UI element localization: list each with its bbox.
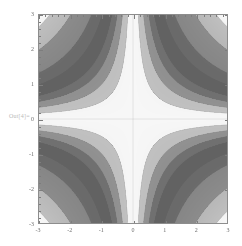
y-minor-tick [227,113,228,114]
y-minor-tick [227,155,228,156]
x-minor-tick [140,223,141,224]
y-minor-tick [227,106,228,107]
x-minor-tick [64,223,65,224]
x-minor-tick [71,223,72,224]
x-minor-tick [210,223,211,224]
y-axis-tick-label: 3 [20,11,34,18]
x-minor-tick [159,223,160,224]
x-minor-tick [204,223,205,224]
x-minor-tick [58,223,59,224]
contour-plot-figure: Out[4]= -3-2-101233210-1-2-3 [0,0,242,246]
contour-field [39,15,227,223]
y-minor-tick [227,134,228,135]
y-axis-tick-label: -2 [20,186,34,193]
y-minor-tick [227,120,228,121]
y-minor-tick [227,204,228,205]
y-minor-tick [227,22,228,23]
x-minor-tick [134,223,135,224]
y-minor-tick [227,176,228,177]
x-minor-tick [121,223,122,224]
x-minor-tick [178,223,179,224]
y-minor-tick [227,92,228,93]
y-minor-tick [227,127,228,128]
y-minor-tick [227,29,228,30]
y-minor-tick [227,162,228,163]
y-minor-tick [227,36,228,37]
y-minor-tick [227,15,228,16]
x-minor-tick [147,223,148,224]
y-minor-tick [227,197,228,198]
x-axis-tick-label: -1 [99,227,104,234]
x-axis-tick-label: 1 [163,227,166,234]
x-axis-tick-label: -3 [36,227,41,234]
y-minor-tick [227,64,228,65]
y-minor-tick [227,78,228,79]
y-minor-tick [227,99,228,100]
y-minor-tick [227,183,228,184]
y-axis-tick-label: 2 [20,46,34,53]
y-axis-tick-label: 0 [20,116,34,123]
x-minor-tick [128,223,129,224]
y-minor-tick [227,190,228,191]
x-minor-tick [102,223,103,224]
x-axis-tick-label: 0 [132,227,135,234]
y-minor-tick [227,218,228,219]
x-axis-tick-label: -2 [67,227,72,234]
x-minor-tick [109,223,110,224]
x-axis-tick-label: 2 [195,227,198,234]
x-minor-tick [77,223,78,224]
x-minor-tick [96,223,97,224]
y-axis-tick-label: -3 [20,221,34,228]
x-minor-tick [90,223,91,224]
y-minor-tick [227,57,228,58]
x-minor-tick [223,223,224,224]
y-minor-tick [227,169,228,170]
x-minor-tick [166,223,167,224]
x-minor-tick [153,223,154,224]
x-minor-tick [191,223,192,224]
x-minor-tick [185,223,186,224]
y-minor-tick [227,43,228,44]
y-axis-tick-label: -1 [20,151,34,158]
x-minor-tick [216,223,217,224]
y-minor-tick [227,85,228,86]
x-minor-tick [39,223,40,224]
x-minor-tick [52,223,53,224]
y-axis-tick-label: 1 [20,81,34,88]
x-minor-tick [45,223,46,224]
plot-frame [38,14,228,224]
y-minor-tick [227,71,228,72]
x-minor-tick [197,223,198,224]
y-minor-tick [227,148,228,149]
y-minor-tick [227,50,228,51]
y-minor-tick [227,211,228,212]
x-minor-tick [83,223,84,224]
x-minor-tick [115,223,116,224]
x-axis-tick-label: 3 [227,227,230,234]
x-minor-tick [172,223,173,224]
y-minor-tick [227,141,228,142]
